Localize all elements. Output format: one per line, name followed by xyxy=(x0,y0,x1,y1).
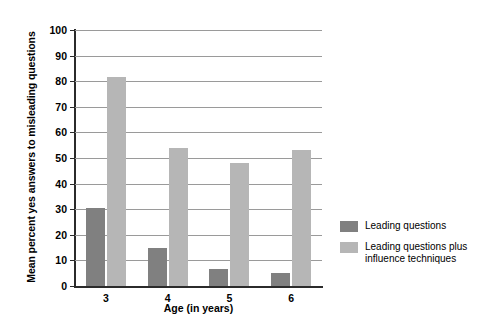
y-tick-label: 10 xyxy=(55,254,67,266)
x-axis-line xyxy=(74,286,323,288)
legend-item: Leading questions xyxy=(340,220,480,232)
y-tick-label: 60 xyxy=(55,126,67,138)
bar-chart-figure: Mean percent yes answers to misleading q… xyxy=(0,0,484,322)
plot-area: 0102030405060708090100 3456 xyxy=(75,30,322,286)
bar xyxy=(292,150,311,286)
y-tick-label: 90 xyxy=(55,50,67,62)
bar xyxy=(86,208,105,286)
legend-label: Leading questions plus influence techniq… xyxy=(365,241,467,264)
y-tick-mark xyxy=(70,209,75,210)
y-tick-label: 30 xyxy=(55,203,67,215)
y-tick-mark xyxy=(70,81,75,82)
bar xyxy=(271,273,290,286)
gridline xyxy=(75,56,322,57)
y-tick-label: 20 xyxy=(55,229,67,241)
legend-swatch xyxy=(340,242,358,253)
y-tick-label: 40 xyxy=(55,178,67,190)
bar xyxy=(148,248,167,286)
y-tick-mark xyxy=(70,286,75,287)
y-tick-mark xyxy=(70,30,75,31)
y-tick-mark xyxy=(70,184,75,185)
gridline xyxy=(75,30,322,31)
y-tick-mark xyxy=(70,56,75,57)
y-axis-title: Mean percent yes answers to misleading q… xyxy=(20,22,42,292)
y-tick-mark xyxy=(70,107,75,108)
bar xyxy=(230,163,249,286)
y-tick-label: 70 xyxy=(55,101,67,113)
x-axis-title: Age (in years) xyxy=(75,302,322,314)
y-tick-mark xyxy=(70,132,75,133)
legend-item: Leading questions plus influence techniq… xyxy=(340,241,480,264)
legend-label: Leading questions xyxy=(365,220,446,232)
y-tick-mark xyxy=(70,158,75,159)
y-tick-label: 50 xyxy=(55,152,67,164)
bar xyxy=(107,77,126,286)
legend-swatch xyxy=(340,221,358,232)
y-tick-label: 0 xyxy=(61,280,67,292)
bar xyxy=(169,148,188,286)
chart-legend: Leading questionsLeading questions plus … xyxy=(340,220,480,273)
y-tick-label: 80 xyxy=(55,75,67,87)
bar xyxy=(209,269,228,286)
y-tick-mark xyxy=(70,235,75,236)
y-tick-label: 100 xyxy=(49,24,67,36)
y-tick-mark xyxy=(70,260,75,261)
